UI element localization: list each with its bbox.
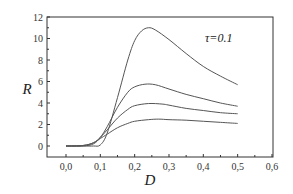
x-tick-label: 0,5 bbox=[231, 161, 244, 172]
line-chart: 0,00,10,20,30,40,50,6 024681012 D R τ=0.… bbox=[0, 0, 293, 194]
x-axis-title: D bbox=[144, 172, 156, 188]
y-tick-label: 0 bbox=[38, 141, 43, 152]
x-tick-label: 0,3 bbox=[163, 161, 176, 172]
y-tick-label: 10 bbox=[33, 33, 43, 44]
tau-annotation: τ=0.1 bbox=[205, 31, 232, 45]
series-line-curve-3 bbox=[66, 103, 238, 146]
series-line-curve-1 bbox=[66, 28, 238, 146]
plot-frame bbox=[47, 17, 273, 157]
y-tick-label: 12 bbox=[33, 12, 43, 23]
y-tick-label: 6 bbox=[38, 76, 43, 87]
y-tick-label: 8 bbox=[38, 55, 43, 66]
series-line-curve-2 bbox=[66, 84, 238, 146]
data-series bbox=[66, 28, 238, 146]
x-tick-label: 0,6 bbox=[266, 161, 279, 172]
y-tick-label: 2 bbox=[38, 119, 43, 130]
x-tick-label: 0,1 bbox=[94, 161, 107, 172]
series-line-curve-4 bbox=[66, 119, 238, 146]
y-tick-label: 4 bbox=[38, 98, 43, 109]
y-axis-title: R bbox=[21, 81, 31, 97]
x-tick-label: 0,4 bbox=[197, 161, 210, 172]
x-tick-label: 0,0 bbox=[60, 161, 73, 172]
x-tick-label: 0,2 bbox=[128, 161, 141, 172]
